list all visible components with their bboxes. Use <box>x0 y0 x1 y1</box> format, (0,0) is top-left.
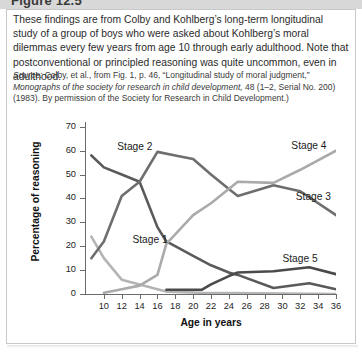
x-tick-mark <box>318 295 319 299</box>
y-tick-mark <box>80 246 85 247</box>
series-label-stage-2: Stage 2 <box>117 141 152 152</box>
x-tick-mark <box>211 295 212 299</box>
line-chart: Percentage of reasoning Age in years 010… <box>12 112 352 340</box>
y-tick-mark <box>80 222 85 223</box>
figure-source-citation: Source: Colby, et al., from Fig. 1, p. 4… <box>13 70 351 105</box>
x-tick-mark <box>282 295 283 299</box>
y-tick-label: 60 <box>52 146 76 155</box>
y-tick-label: 20 <box>52 241 76 250</box>
x-tick-mark <box>265 295 266 299</box>
x-tick-label: 36 <box>326 301 346 311</box>
x-tick-mark <box>122 295 123 299</box>
y-tick-mark <box>80 294 85 295</box>
y-axis-title: Percentage of reasoning <box>30 127 41 277</box>
y-tick-mark <box>80 270 85 271</box>
y-tick-label: 50 <box>52 170 76 179</box>
y-tick-label: 0 <box>52 289 76 298</box>
figure-number-title: Figure 12.5 <box>11 0 82 8</box>
y-tick-mark <box>80 198 85 199</box>
panel-shadow <box>7 345 358 348</box>
x-tick-mark <box>300 295 301 299</box>
x-tick-mark <box>140 295 141 299</box>
series-label-stage-1: Stage 1 <box>132 234 167 245</box>
x-tick-mark <box>229 295 230 299</box>
y-tick-label: 30 <box>52 217 76 226</box>
x-tick-mark <box>336 295 337 299</box>
figure-container: Figure 12.5 These findings are from Colb… <box>0 0 362 353</box>
y-tick-label: 10 <box>52 265 76 274</box>
y-tick-mark <box>80 151 85 152</box>
series-label-stage-3: Stage 3 <box>296 191 331 202</box>
x-tick-mark <box>175 295 176 299</box>
source-label: Source: <box>13 70 42 80</box>
y-tick-mark <box>80 127 85 128</box>
y-tick-mark <box>80 175 85 176</box>
series-line-stage-4 <box>104 151 336 293</box>
x-axis-title: Age in years <box>86 317 336 328</box>
y-tick-label: 40 <box>52 193 76 202</box>
series-label-stage-5: Stage 5 <box>282 253 317 264</box>
source-journal: Monographs of the society for research i… <box>13 82 243 92</box>
x-tick-mark <box>193 295 194 299</box>
x-tick-mark <box>157 295 158 299</box>
x-tick-mark <box>104 295 105 299</box>
series-line-stage-3 <box>91 152 336 258</box>
x-tick-mark <box>247 295 248 299</box>
source-line-1: Colby, et al., from Fig. 1, p. 46, “Long… <box>42 70 309 80</box>
figure-header-strip: Figure 12.5 <box>0 0 362 9</box>
series-label-stage-4: Stage 4 <box>291 140 326 151</box>
y-tick-label: 70 <box>52 122 76 131</box>
